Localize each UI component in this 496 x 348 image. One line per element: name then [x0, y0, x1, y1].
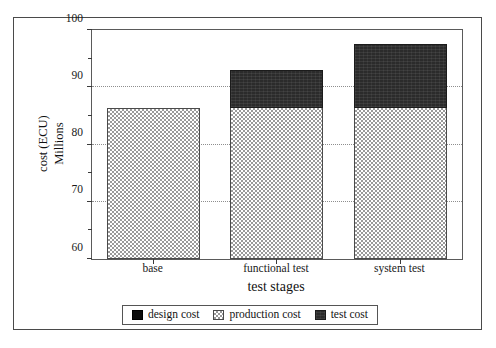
figure-frame: cost (ECU) Millions 10090807060 basefunc…: [13, 17, 482, 330]
plot-area: 10090807060: [91, 29, 463, 260]
y-axis-tick-label: 60: [72, 242, 84, 254]
legend-label: production cost: [229, 309, 300, 321]
x-axis-title: test stages: [91, 280, 461, 294]
x-axis-category-label: functional test: [221, 263, 331, 275]
x-axis-category-label: system test: [344, 263, 454, 275]
stacked-bar[interactable]: [107, 108, 200, 259]
y-axis-tick-label: 90: [72, 70, 84, 82]
stacked-bar[interactable]: [354, 44, 447, 259]
bar-segment-test-cost[interactable]: [230, 70, 323, 108]
y-axis-title: cost (ECU) Millions: [28, 29, 74, 258]
chart-legend: design costproduction costtest cost: [122, 305, 378, 325]
legend-item[interactable]: test cost: [315, 309, 368, 321]
bar-segment-production-cost[interactable]: [107, 108, 200, 259]
x-axis-category-label: base: [98, 263, 208, 275]
bar-segment-test-cost[interactable]: [354, 44, 447, 108]
dark-solid-swatch-icon: [315, 310, 326, 320]
bar-column[interactable]: [230, 30, 323, 259]
x-axis-tick-labels: basefunctional testsystem test: [91, 263, 461, 275]
legend-label: design cost: [148, 309, 199, 321]
bar-column[interactable]: [107, 30, 200, 259]
bar-group: [92, 30, 462, 259]
y-axis-tick-label: 80: [72, 127, 84, 139]
bar-segment-production-cost[interactable]: [230, 108, 323, 259]
bar-segment-production-cost[interactable]: [354, 108, 447, 259]
y-axis-title-line-2: Millions: [51, 115, 67, 172]
legend-item[interactable]: production cost: [213, 309, 300, 321]
legend-item[interactable]: design cost: [132, 309, 199, 321]
y-axis-tick-label: 100: [66, 13, 83, 25]
stacked-bar[interactable]: [230, 70, 323, 259]
bar-column[interactable]: [354, 30, 447, 259]
y-axis-title-line-1: cost (ECU): [35, 115, 51, 172]
checkerboard-swatch-icon: [213, 310, 224, 320]
y-axis-tick-label: 70: [72, 185, 84, 197]
legend-label: test cost: [331, 309, 368, 321]
solid-black-swatch-icon: [132, 310, 143, 320]
